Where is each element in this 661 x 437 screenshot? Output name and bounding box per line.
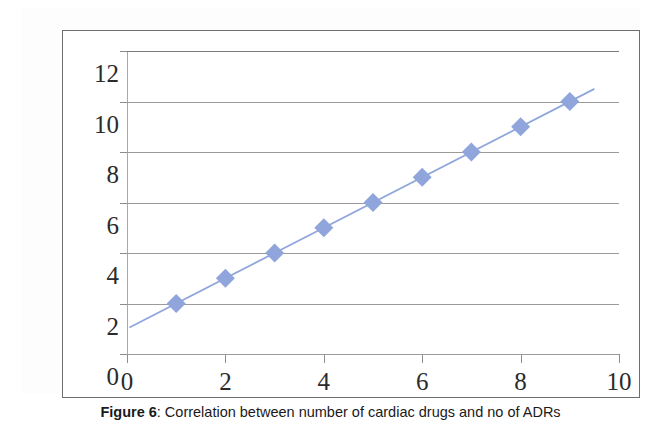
gridline-y-4 — [127, 253, 619, 254]
y-axis-labels: 024681012 — [63, 53, 119, 421]
y-axis-tick-8 — [120, 152, 127, 153]
data-point-marker — [314, 218, 333, 237]
y-axis-tick-10 — [120, 102, 127, 103]
x-axis-tick-label-8: 8 — [491, 369, 551, 394]
y-axis-tick-4 — [120, 253, 127, 254]
chart-container: 024681012 0246810 — [62, 30, 640, 398]
gridline-y-8 — [127, 152, 619, 153]
x-axis-tick-0 — [127, 354, 128, 363]
y-axis-tick-12 — [120, 51, 127, 52]
figure-caption-label: Figure 6 — [100, 404, 156, 420]
x-axis-tick-4 — [324, 354, 325, 363]
y-axis-tick-label-8: 8 — [73, 162, 119, 187]
figure-frame: 024681012 0246810 — [21, 8, 640, 394]
data-point-marker — [511, 117, 530, 136]
gridline-y-6 — [127, 203, 619, 204]
x-axis-tick-6 — [422, 354, 423, 363]
y-axis-tick-label-2: 2 — [73, 313, 119, 338]
figure-caption-text: Correlation between number of cardiac dr… — [161, 404, 561, 420]
x-axis-tick-label-6: 6 — [392, 369, 452, 394]
x-axis-tick-8 — [521, 354, 522, 363]
y-axis-tick-label-10: 10 — [73, 111, 119, 136]
y-axis-tick-2 — [120, 304, 127, 305]
data-point-marker — [216, 269, 235, 288]
y-axis-tick-0 — [120, 354, 127, 355]
x-axis-tick-label-0: 0 — [97, 369, 157, 394]
gridline-y-12 — [127, 51, 619, 52]
y-axis-tick-label-4: 4 — [73, 263, 119, 288]
figure-caption: Figure 6: Correlation between number of … — [0, 404, 661, 420]
plot-area — [127, 51, 619, 354]
trendline — [129, 89, 594, 328]
x-axis-tick-2 — [225, 354, 226, 363]
data-point-marker — [413, 168, 432, 187]
y-axis-tick-6 — [120, 203, 127, 204]
y-axis-tick-label-6: 6 — [73, 212, 119, 237]
gridline-y-2 — [127, 304, 619, 305]
x-axis-tick-label-10: 10 — [589, 369, 649, 394]
x-axis-tick-10 — [619, 354, 620, 363]
x-axis-tick-label-2: 2 — [195, 369, 255, 394]
y-axis-tick-label-12: 12 — [73, 61, 119, 86]
x-axis-tick-label-4: 4 — [294, 369, 354, 394]
gridline-y-10 — [127, 102, 619, 103]
gridline-y-0 — [127, 354, 619, 355]
